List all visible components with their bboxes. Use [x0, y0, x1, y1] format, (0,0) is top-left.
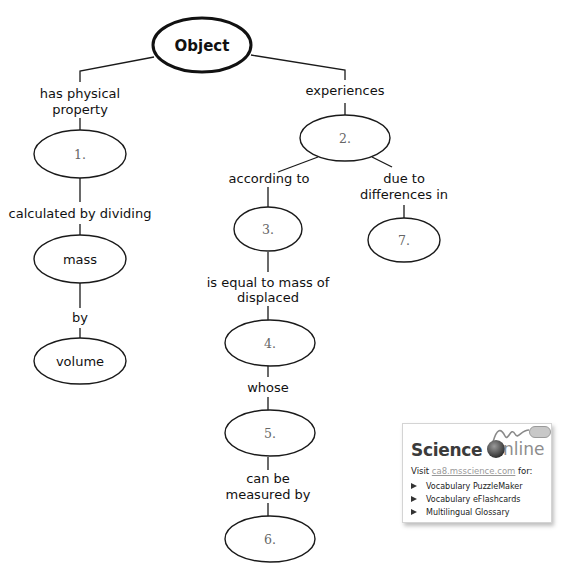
node-object: Object: [153, 18, 251, 72]
node-4: 4.: [225, 320, 315, 366]
node-4-label: 4.: [264, 336, 276, 351]
node-5: 5.: [225, 410, 315, 456]
visit-suffix: for:: [515, 466, 532, 476]
node-2-label: 2.: [339, 131, 351, 146]
logo-online-text: nline: [503, 439, 544, 459]
resource-list: Vocabulary PuzzleMaker Vocabulary eFlash…: [411, 480, 523, 519]
node-mass: mass: [34, 235, 126, 283]
link-due-to-line1: due to: [383, 171, 425, 186]
node-5-label: 5.: [264, 426, 276, 441]
node-6: 6.: [225, 516, 315, 562]
link-is-equal-line1: is equal to mass of: [207, 275, 330, 290]
link-can-be-line1: can be: [246, 471, 290, 486]
node-6-label: 6.: [264, 532, 276, 547]
logo-science-text: Science: [411, 440, 482, 460]
link-according-to: according to: [229, 171, 310, 186]
visit-prefix: Visit: [411, 466, 432, 476]
resource-item-eflashcards[interactable]: Vocabulary eFlashcards: [411, 493, 523, 506]
node-1-label: 1.: [74, 147, 86, 162]
link-by: by: [72, 310, 88, 325]
visit-line: Visit ca8.msscience.com for:: [411, 466, 532, 476]
node-7: 7.: [368, 218, 440, 262]
edge-node-2-to-according: [278, 157, 318, 172]
edge-root-experiences: [251, 55, 345, 80]
link-due-to-line2: differences in: [360, 187, 448, 202]
resource-item-label: Multilingual Glossary: [426, 508, 509, 517]
triangle-bullet-icon: [411, 509, 417, 515]
resource-item-glossary[interactable]: Multilingual Glossary: [411, 506, 523, 519]
science-online-logo: Science nline: [411, 432, 547, 462]
link-whose: whose: [247, 380, 289, 395]
link-can-be-line2: measured by: [225, 487, 310, 502]
triangle-bullet-icon: [411, 496, 417, 502]
computer-mouse-icon: [529, 426, 551, 438]
node-volume-label: volume: [56, 354, 104, 369]
node-volume: volume: [34, 338, 126, 384]
node-1: 1.: [34, 130, 126, 178]
resource-item-label: Vocabulary eFlashcards: [426, 495, 520, 504]
link-has-physical-property-line1: has physical: [40, 86, 120, 101]
edge-root-has-physical-property: [80, 57, 154, 82]
node-2: 2.: [300, 115, 390, 161]
link-has-physical-property-line2: property: [52, 102, 108, 117]
resource-item-puzzlemaker[interactable]: Vocabulary PuzzleMaker: [411, 480, 523, 493]
link-experiences: experiences: [306, 83, 385, 98]
node-object-label: Object: [175, 37, 230, 55]
website-link[interactable]: ca8.msscience.com: [432, 466, 516, 476]
triangle-bullet-icon: [411, 483, 417, 489]
node-3: 3.: [234, 207, 302, 251]
science-online-box: Science nline Visit ca8.msscience.com fo…: [402, 423, 552, 523]
node-7-label: 7.: [398, 233, 410, 248]
link-calculated-by-dividing: calculated by dividing: [9, 206, 152, 221]
edge-node-2-to-due-to: [372, 157, 392, 167]
link-is-equal-line2: displaced: [237, 290, 299, 305]
node-3-label: 3.: [262, 222, 274, 237]
node-mass-label: mass: [63, 252, 97, 267]
resource-item-label: Vocabulary PuzzleMaker: [426, 482, 523, 491]
